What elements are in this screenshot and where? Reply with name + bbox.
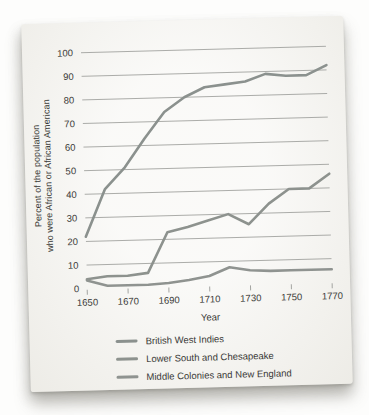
svg-text:1710: 1710: [199, 293, 220, 305]
svg-text:70: 70: [64, 118, 75, 129]
legend-label: Middle Colonies and New England: [146, 367, 291, 382]
svg-text:1690: 1690: [158, 294, 179, 306]
legend-line-swatch: [116, 339, 138, 343]
svg-text:90: 90: [63, 71, 74, 82]
svg-text:20: 20: [67, 236, 78, 247]
chart-legend: British West Indies Lower South and Ches…: [115, 329, 291, 384]
svg-text:1750: 1750: [281, 291, 302, 303]
legend-item: Lower South and Chesapeake: [116, 347, 292, 366]
svg-text:100: 100: [57, 47, 73, 58]
svg-text:60: 60: [65, 142, 76, 153]
svg-text:1730: 1730: [240, 292, 261, 304]
svg-text:1770: 1770: [322, 290, 343, 302]
svg-text:1670: 1670: [118, 295, 139, 307]
legend-label: British West Indies: [145, 333, 224, 346]
svg-text:0: 0: [74, 283, 80, 294]
svg-text:10: 10: [68, 260, 79, 271]
legend-line-swatch: [116, 375, 138, 379]
svg-text:80: 80: [64, 94, 75, 105]
photo-background: Percent of the population who were Afric…: [0, 0, 369, 415]
svg-text:30: 30: [67, 212, 78, 223]
svg-text:1650: 1650: [77, 296, 98, 308]
chart-card: Percent of the population who were Afric…: [21, 16, 353, 392]
legend-line-swatch: [116, 357, 138, 361]
svg-text:50: 50: [65, 165, 76, 176]
line-chart: 0102030405060708090100165016701690171017…: [21, 16, 351, 328]
svg-text:40: 40: [66, 189, 77, 200]
legend-label: Lower South and Chesapeake: [146, 349, 274, 363]
